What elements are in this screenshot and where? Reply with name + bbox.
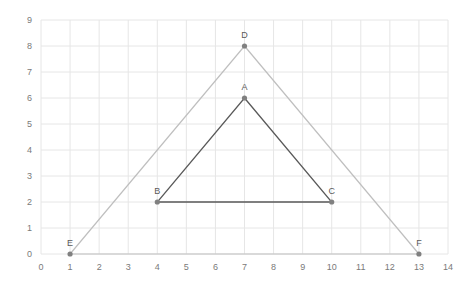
x-axis-ticks: 01234567891011121314 [38, 262, 453, 272]
data-point-E [67, 251, 72, 256]
x-tick-label: 10 [327, 262, 337, 272]
data-point-F [416, 251, 421, 256]
x-tick-label: 5 [184, 262, 189, 272]
point-label-F: F [416, 238, 422, 248]
x-tick-label: 14 [443, 262, 453, 272]
data-point-A [242, 95, 247, 100]
y-tick-label: 3 [27, 171, 32, 181]
x-tick-label: 11 [356, 262, 365, 272]
point-label-B: B [154, 186, 160, 196]
x-tick-label: 6 [213, 262, 218, 272]
x-tick-label: 9 [300, 262, 305, 272]
x-tick-label: 3 [126, 262, 131, 272]
data-point-C [329, 199, 334, 204]
point-label-C: C [328, 186, 335, 196]
y-tick-label: 0 [27, 249, 32, 259]
x-tick-label: 12 [385, 262, 395, 272]
y-tick-label: 6 [27, 93, 32, 103]
y-tick-label: 4 [27, 145, 32, 155]
data-point-B [155, 199, 160, 204]
x-tick-label: 13 [414, 262, 424, 272]
x-tick-label: 4 [155, 262, 160, 272]
data-point-D [242, 43, 247, 48]
scatter-chart: 0123456789 01234567891011121314 DFEACB [0, 0, 472, 288]
y-tick-label: 2 [27, 197, 32, 207]
y-tick-label: 7 [27, 67, 32, 77]
x-tick-label: 8 [271, 262, 276, 272]
x-tick-label: 2 [97, 262, 102, 272]
x-tick-label: 0 [38, 262, 43, 272]
point-label-E: E [67, 238, 73, 248]
y-axis-ticks: 0123456789 [27, 15, 32, 259]
y-tick-label: 8 [27, 41, 32, 51]
point-label-D: D [241, 30, 248, 40]
y-tick-label: 9 [27, 15, 32, 25]
y-tick-label: 5 [27, 119, 32, 129]
x-tick-label: 1 [68, 262, 73, 272]
point-label-A: A [241, 82, 247, 92]
x-tick-label: 7 [242, 262, 247, 272]
grid-lines [41, 20, 448, 254]
y-tick-label: 1 [27, 223, 32, 233]
